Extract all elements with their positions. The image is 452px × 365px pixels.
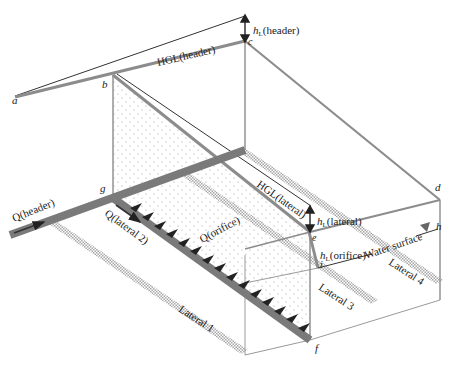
diagram-svg: a b c d e f g h i HGL(header) hL(header)…	[0, 0, 452, 365]
hgl-c-to-d	[245, 41, 440, 200]
point-f-label: f	[315, 342, 320, 354]
hl-lateral-rest: (lateral)	[327, 215, 362, 228]
hl-orifice-rest: (orifice)	[330, 249, 366, 262]
hl-orifice-label: hL(orifice)	[320, 249, 366, 263]
hgl-header-label: HGL(header)	[156, 43, 217, 69]
point-e-label: e	[312, 232, 317, 243]
water-surface-triangle-icon	[420, 222, 430, 232]
hl-header-label: hL(header)	[253, 24, 300, 38]
point-d-label: d	[435, 181, 441, 193]
point-a-label: a	[12, 94, 18, 106]
hl-lateral-label: hL(lateral)	[317, 215, 362, 229]
hl-header-rest: (header)	[263, 24, 300, 37]
point-c-label: c	[248, 36, 253, 47]
point-g-label: g	[100, 182, 106, 194]
energy-line-header	[15, 16, 245, 96]
manifold-hydraulics-diagram: a b c d e f g h i HGL(header) hL(header)…	[0, 0, 452, 365]
lateral-1-label: Lateral 1	[177, 303, 217, 335]
point-h-label: h	[436, 220, 442, 232]
point-b-label: b	[102, 78, 108, 90]
